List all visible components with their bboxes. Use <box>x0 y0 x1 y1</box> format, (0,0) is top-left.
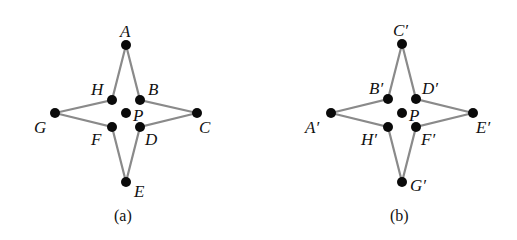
label-a-F: F <box>90 130 102 149</box>
label-b-P: P <box>408 106 419 125</box>
figure-a: A H B G P C F D E (a) <box>34 22 211 225</box>
label-a-G: G <box>34 118 46 137</box>
label-b-A-prime: A′ <box>304 118 319 137</box>
point-b-A-prime <box>326 108 336 118</box>
point-a-H <box>107 95 117 105</box>
point-a-C <box>192 108 202 118</box>
label-a-B: B <box>148 80 159 99</box>
point-a-B <box>135 95 145 105</box>
point-b-G-prime <box>397 177 407 187</box>
point-b-B-prime <box>383 94 393 104</box>
figure-b: C′ B′ D′ A′ P E′ H′ F′ G′ (b) <box>304 21 490 225</box>
label-a-C: C <box>199 118 211 137</box>
label-a-E: E <box>133 182 145 201</box>
label-b-C-prime: C′ <box>393 21 408 40</box>
point-a-P <box>121 108 131 118</box>
point-b-H-prime <box>383 122 393 132</box>
point-a-A <box>121 40 131 50</box>
point-a-E <box>121 177 131 187</box>
label-a-D: D <box>144 130 158 149</box>
label-a-A: A <box>119 22 131 41</box>
caption-b: (b) <box>390 207 409 225</box>
label-b-H-prime: H′ <box>360 130 377 149</box>
label-a-P: P <box>132 106 143 125</box>
label-b-E-prime: E′ <box>475 118 490 137</box>
point-a-F <box>107 122 117 132</box>
figure-canvas: A H B G P C F D E (a) C′ B′ D′ A′ P E′ H… <box>0 0 517 240</box>
label-b-D-prime: D′ <box>421 79 438 98</box>
caption-a: (a) <box>114 207 132 225</box>
point-a-G <box>50 108 60 118</box>
point-b-P <box>397 108 407 118</box>
label-b-G-prime: G′ <box>410 176 426 195</box>
label-b-F-prime: F′ <box>420 130 435 149</box>
label-b-B-prime: B′ <box>369 79 383 98</box>
label-a-H: H <box>90 80 105 99</box>
point-b-C-prime <box>397 39 407 49</box>
point-b-E-prime <box>468 108 478 118</box>
point-b-D-prime <box>411 94 421 104</box>
